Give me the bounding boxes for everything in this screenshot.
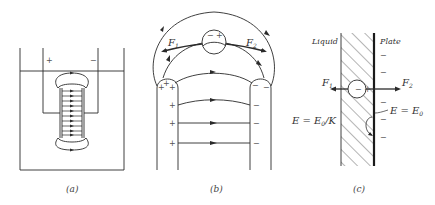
- force-f2-label-b: F2: [245, 37, 257, 49]
- container-outline: [20, 48, 124, 170]
- svg-text:−: −: [253, 101, 260, 110]
- field-outside-label: E = E0: [389, 105, 423, 117]
- caption-c: (c): [353, 184, 366, 194]
- force-f2-label-c: F2: [401, 77, 413, 89]
- svg-text:−: −: [253, 139, 260, 148]
- panel-a-plus-label: +: [46, 56, 53, 65]
- panel-a: [20, 48, 124, 170]
- svg-text:+: +: [169, 119, 176, 128]
- svg-text:+: +: [169, 139, 176, 148]
- svg-text:−: −: [380, 133, 387, 142]
- left-electrode-charges: + + + + + +: [158, 79, 176, 148]
- svg-text:−: −: [380, 68, 387, 77]
- svg-text:−: −: [380, 115, 387, 124]
- svg-text:+: +: [169, 83, 176, 92]
- right-electrode-charges: − − − − −: [252, 81, 270, 148]
- figure-canvas: + − (a) − + F1 F2: [0, 0, 435, 205]
- svg-text:+: +: [169, 101, 176, 110]
- svg-text:−: −: [380, 51, 387, 60]
- panel-c: [333, 33, 398, 166]
- plate-label: Plate: [379, 37, 401, 46]
- particle-charges: − +: [355, 85, 371, 94]
- field-inside-label: E = E0/K: [291, 115, 337, 127]
- svg-text:−: −: [252, 81, 259, 90]
- dipole-minus: −: [207, 31, 214, 40]
- dipole-plus: +: [216, 31, 223, 40]
- liquid-label: Liquid: [311, 37, 338, 46]
- svg-text:−: −: [253, 119, 260, 128]
- svg-text:−: −: [380, 98, 387, 107]
- plate-charges: − − − − −: [380, 51, 387, 142]
- force-f2-arrow-b: [226, 44, 264, 51]
- field-lines: [62, 91, 82, 135]
- liquid-layer: [341, 33, 373, 166]
- svg-text:−: −: [263, 83, 270, 92]
- arc-field-line: [175, 73, 252, 83]
- caption-a: (a): [66, 184, 79, 194]
- panel-a-minus-label: −: [90, 56, 97, 65]
- caption-b: (b): [210, 184, 223, 194]
- force-f1-label-b: F1: [167, 37, 179, 49]
- force-f1-label-c: F1: [321, 77, 333, 89]
